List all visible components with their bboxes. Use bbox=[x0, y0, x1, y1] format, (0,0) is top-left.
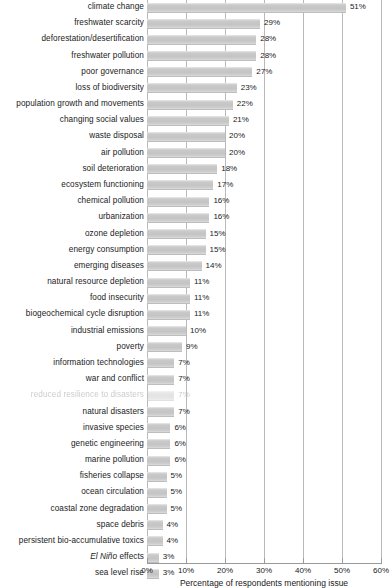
bar-row: air pollution20% bbox=[0, 147, 391, 163]
bar-value-label: 28% bbox=[260, 34, 276, 44]
bar-value-label: 4% bbox=[167, 536, 179, 546]
bar-row: marine pollution6% bbox=[0, 454, 391, 470]
category-label: freshwater pollution bbox=[0, 51, 144, 61]
category-label: marine pollution bbox=[0, 455, 144, 465]
category-label: sea level rise bbox=[0, 568, 144, 578]
category-label: loss of biodiversity bbox=[0, 83, 144, 93]
category-label: climate change bbox=[0, 2, 144, 12]
category-label: ozone depletion bbox=[0, 229, 144, 239]
bar-value-label: 21% bbox=[233, 115, 249, 125]
bar-value-label: 29% bbox=[264, 18, 280, 28]
bar-value-label: 6% bbox=[174, 423, 186, 433]
bar bbox=[147, 116, 229, 126]
bar-value-label: 16% bbox=[213, 212, 229, 222]
category-label: urbanization bbox=[0, 212, 144, 222]
category-label: coastal zone degradation bbox=[0, 504, 144, 514]
bar bbox=[147, 358, 174, 368]
bar bbox=[147, 35, 256, 45]
x-tick-label: 40% bbox=[295, 566, 311, 576]
bar-row: reduced resilience to disasters7% bbox=[0, 389, 391, 405]
x-tick-label: 0% bbox=[141, 566, 153, 576]
bar bbox=[147, 278, 190, 288]
category-label: fisheries collapse bbox=[0, 471, 144, 481]
bar bbox=[147, 423, 170, 433]
category-label: natural resource depletion bbox=[0, 277, 144, 287]
bar-value-label: 27% bbox=[256, 67, 272, 77]
bar bbox=[147, 294, 190, 304]
bar-row: freshwater pollution28% bbox=[0, 50, 391, 66]
category-label: population growth and movements bbox=[0, 99, 144, 109]
bar-row: poverty9% bbox=[0, 341, 391, 357]
category-label: industrial emissions bbox=[0, 326, 144, 336]
bar bbox=[147, 504, 167, 514]
bar-row: emerging diseases14% bbox=[0, 260, 391, 276]
bar bbox=[147, 164, 217, 174]
bar bbox=[147, 488, 167, 498]
bar-row: deforestation/desertification28% bbox=[0, 33, 391, 49]
category-label: reduced resilience to disasters bbox=[0, 390, 144, 400]
category-label: poor governance bbox=[0, 67, 144, 77]
x-tick bbox=[186, 558, 187, 564]
category-label: space debris bbox=[0, 520, 144, 530]
bar-value-label: 15% bbox=[210, 229, 226, 239]
bar bbox=[147, 310, 190, 320]
bar-value-label: 17% bbox=[217, 180, 233, 190]
bar-value-label: 16% bbox=[213, 196, 229, 206]
bar-row: information technologies7% bbox=[0, 357, 391, 373]
x-tick-label: 10% bbox=[178, 566, 194, 576]
bar-row: population growth and movements22% bbox=[0, 98, 391, 114]
bar bbox=[147, 197, 209, 207]
x-tick bbox=[264, 558, 265, 564]
bar bbox=[147, 456, 170, 466]
bar-value-label: 14% bbox=[206, 261, 222, 271]
category-label: emerging diseases bbox=[0, 261, 144, 271]
bar-value-label: 11% bbox=[194, 277, 209, 287]
category-label: chemical pollution bbox=[0, 196, 144, 206]
bar bbox=[147, 326, 186, 336]
bar bbox=[147, 67, 252, 77]
category-label: air pollution bbox=[0, 148, 144, 158]
bar-value-label: 20% bbox=[229, 131, 245, 141]
bar bbox=[147, 407, 174, 417]
bar-row: urbanization16% bbox=[0, 211, 391, 227]
bar bbox=[147, 19, 260, 29]
bar-row: waste disposal20% bbox=[0, 130, 391, 146]
bar-value-label: 5% bbox=[171, 471, 183, 481]
bar-row: persistent bio-accumulative toxics4% bbox=[0, 535, 391, 551]
bar-value-label: 3% bbox=[163, 568, 175, 578]
bar bbox=[147, 3, 346, 13]
bar-row: invasive species6% bbox=[0, 422, 391, 438]
bar bbox=[147, 261, 202, 271]
x-tick-label: 30% bbox=[256, 566, 272, 576]
bar-row: ocean circulation5% bbox=[0, 486, 391, 502]
bar-row: fisheries collapse5% bbox=[0, 470, 391, 486]
category-label: war and conflict bbox=[0, 374, 144, 384]
bar bbox=[147, 148, 225, 158]
bar-value-label: 3% bbox=[163, 552, 175, 562]
bar-value-label: 7% bbox=[178, 407, 190, 417]
bar bbox=[147, 391, 174, 401]
category-label: soil deterioration bbox=[0, 164, 144, 174]
x-tick bbox=[381, 558, 382, 564]
bar bbox=[147, 229, 206, 239]
bar-value-label: 15% bbox=[210, 245, 226, 255]
bar bbox=[147, 245, 206, 255]
bar-row: space debris4% bbox=[0, 519, 391, 535]
bar-row: natural disasters7% bbox=[0, 406, 391, 422]
bar bbox=[147, 83, 237, 93]
x-tick bbox=[303, 558, 304, 564]
category-label: food insecurity bbox=[0, 293, 144, 303]
bar-row: coastal zone degradation5% bbox=[0, 503, 391, 519]
x-tick bbox=[225, 558, 226, 564]
category-label: persistent bio-accumulative toxics bbox=[0, 536, 144, 546]
x-tick bbox=[147, 558, 148, 564]
x-tick bbox=[342, 558, 343, 564]
category-label: information technologies bbox=[0, 358, 144, 368]
bar-row: loss of biodiversity23% bbox=[0, 82, 391, 98]
bar-row: freshwater scarcity29% bbox=[0, 17, 391, 33]
bar-value-label: 51% bbox=[350, 2, 366, 12]
category-label: changing social values bbox=[0, 115, 144, 125]
bar-value-label: 5% bbox=[171, 504, 183, 514]
bar-row: genetic engineering6% bbox=[0, 438, 391, 454]
